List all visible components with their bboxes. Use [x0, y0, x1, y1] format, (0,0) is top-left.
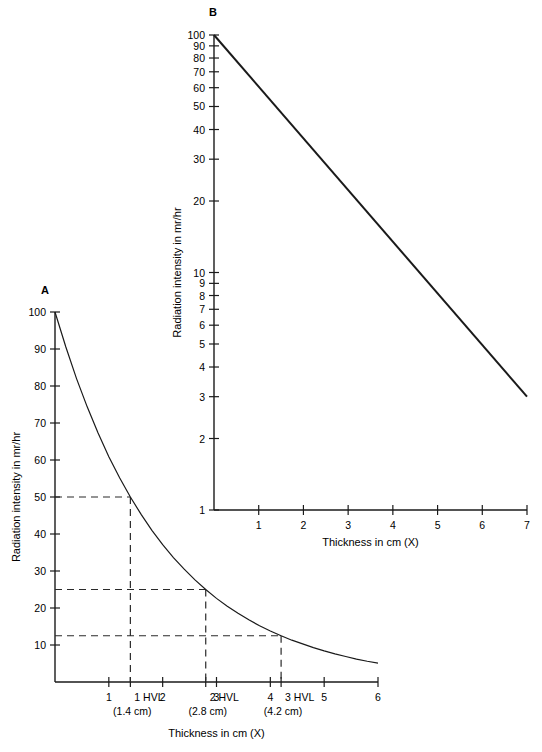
panel-a-hvl-sublabel: (1.4 cm) — [113, 705, 152, 717]
panel-b-y-tick-label: 90 — [193, 40, 205, 52]
panel-b-y-tick-label: 30 — [193, 153, 205, 165]
panel-a-y-tick-label: 100 — [28, 306, 46, 318]
panel-b-x-tick-label: 7 — [524, 519, 530, 531]
panel-b-x-tick-label: 2 — [301, 519, 307, 531]
figure-canvas: A B 123456789102030405060708090100123456… — [0, 0, 542, 752]
panel-a-y-axis-title: Radiation intensity in mr/hr — [10, 432, 22, 563]
panel-a-y-tick-label: 70 — [34, 417, 46, 429]
panel-a-y-tick-label: 50 — [34, 491, 46, 503]
panel-b-y-tick-label: 1 — [199, 504, 205, 516]
panel-a-x-tick-label: 6 — [375, 691, 381, 703]
panel-a-hvl-sublabel: (2.8 cm) — [188, 705, 227, 717]
panel-b-x-tick-label: 1 — [256, 519, 262, 531]
panel-b-y-tick-label: 8 — [199, 290, 205, 302]
panel-b-y-tick-label: 100 — [187, 29, 205, 41]
panel-b-y-tick-label: 80 — [193, 52, 205, 64]
panel-a-y-tick-label: 60 — [34, 454, 46, 466]
panel-b-y-tick-label: 3 — [199, 391, 205, 403]
panel-a-hvl-label: 1 HVL — [134, 691, 163, 703]
panel-b-y-tick-label: 7 — [199, 303, 205, 315]
panel-b-x-tick-label: 6 — [479, 519, 485, 531]
panel-a-y-tick-label: 90 — [34, 343, 46, 355]
panel-a-x-tick-label: 1 — [106, 691, 112, 703]
panel-a-y-tick-label: 30 — [34, 565, 46, 577]
panel-b-x-tick-label: 3 — [345, 519, 351, 531]
panel-a-y-tick-label: 20 — [34, 602, 46, 614]
panel-b-y-tick-label: 50 — [193, 100, 205, 112]
panel-b-y-tick-label: 40 — [193, 124, 205, 136]
panel-a-decay-curve — [55, 312, 378, 663]
panel-b-y-tick-label: 6 — [199, 319, 205, 331]
panel-a-chart: 1020304050607080901001234561 HVL(1.4 cm)… — [10, 306, 381, 739]
panel-b-y-tick-label: 20 — [193, 195, 205, 207]
panel-a-y-tick-label: 80 — [34, 380, 46, 392]
panel-a-x-axis-title: Thickness in cm (X) — [168, 727, 265, 739]
panel-b-chart: 1234567891020304050607080901001234567Thi… — [171, 29, 530, 548]
panel-a-hvl-label: 2 HVL — [210, 691, 239, 703]
panel-b-decay-line — [214, 35, 527, 397]
panel-b-x-axis-title: Thickness in cm (X) — [322, 536, 419, 548]
charts-svg: 1234567891020304050607080901001234567Thi… — [0, 0, 542, 752]
panel-a-x-tick-label: 5 — [321, 691, 327, 703]
panel-b-y-tick-label: 70 — [193, 66, 205, 78]
panel-b-y-tick-label: 60 — [193, 82, 205, 94]
panel-b-x-tick-label: 4 — [390, 519, 396, 531]
panel-a-y-tick-label: 40 — [34, 528, 46, 540]
panel-a-hvl-sublabel: (4.2 cm) — [264, 705, 303, 717]
panel-b-y-tick-label: 2 — [199, 433, 205, 445]
panel-b-y-tick-label: 5 — [199, 338, 205, 350]
panel-b-x-tick-label: 5 — [435, 519, 441, 531]
panel-b-y-tick-label: 10 — [193, 267, 205, 279]
panel-b-y-tick-label: 9 — [199, 277, 205, 289]
panel-a-x-tick-label: 4 — [267, 691, 273, 703]
panel-a-hvl-label: 3 HVL — [285, 691, 314, 703]
panel-a-y-tick-label: 10 — [34, 639, 46, 651]
panel-b-y-tick-label: 4 — [199, 361, 205, 373]
panel-b-y-axis-title: Radiation intensity in mr/hr — [171, 207, 183, 338]
